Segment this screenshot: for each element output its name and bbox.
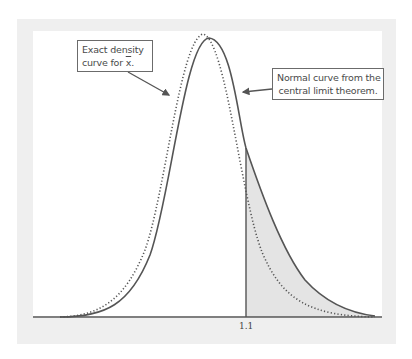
callout-left-line1: Exact density: [82, 43, 148, 56]
density-chart: [0, 0, 412, 359]
callout-left-line2: curve for x.: [82, 56, 148, 69]
exact-density-callout: Exact density curve for x.: [77, 40, 153, 72]
arrow-to-normal-curve: [243, 89, 272, 92]
arrow-to-exact-curve: [128, 72, 169, 95]
normal-curve-callout: Normal curve from the central limit theo…: [272, 68, 384, 100]
callout-right-line2: central limit theorem.: [277, 84, 379, 97]
shaded-tail-area: [246, 148, 375, 317]
x-tick-label-1-1: 1.1: [239, 321, 253, 331]
callout-right-line1: Normal curve from the: [277, 71, 379, 84]
